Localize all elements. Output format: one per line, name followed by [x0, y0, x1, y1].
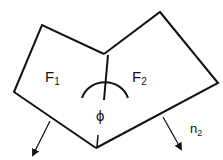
label-f2: F2 [132, 68, 147, 87]
dihedral-angle-diagram: F1 F2 ϕ n2 [0, 0, 223, 160]
label-f1: F1 [45, 68, 60, 87]
normal-1-arrow [33, 121, 50, 155]
bottom-tick [97, 135, 98, 147]
label-phi: ϕ [96, 107, 104, 124]
label-n2: n2 [190, 121, 202, 138]
normal-2-arrow [163, 117, 181, 149]
shared-edge [104, 55, 108, 100]
diagram-canvas: F1 F2 ϕ n2 [0, 0, 223, 160]
